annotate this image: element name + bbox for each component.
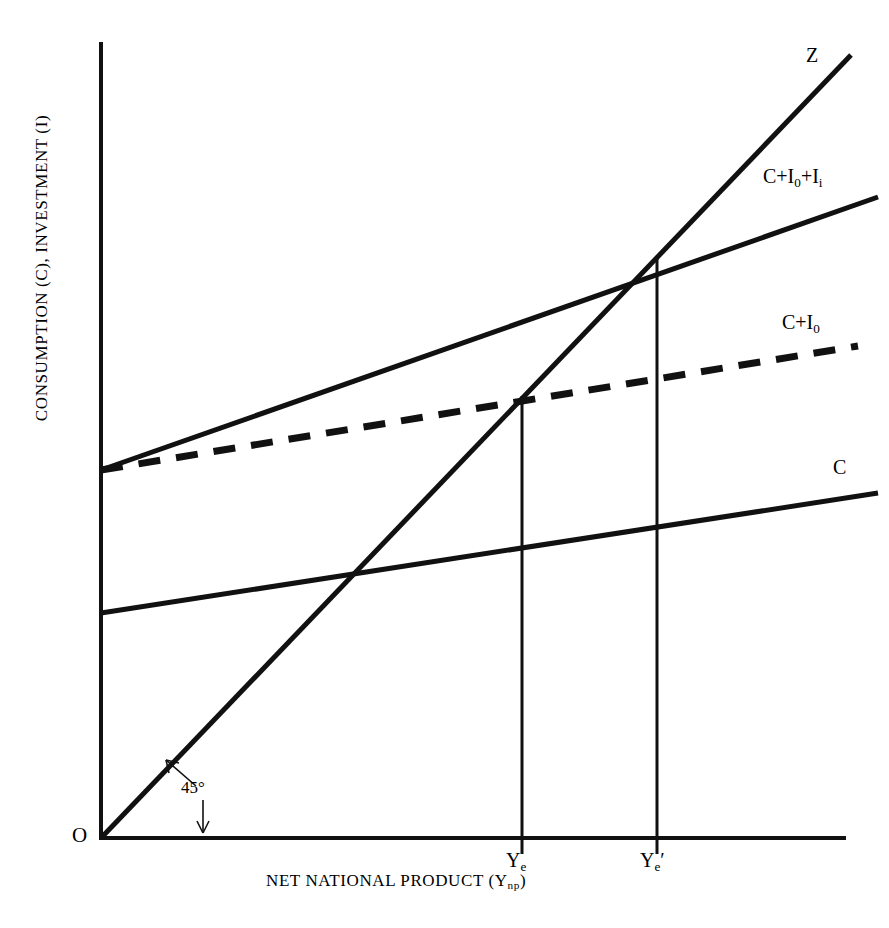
- curve-label-ci0ii-sub1: 0: [794, 175, 801, 190]
- curve-label-ci0-main: C+I: [782, 311, 813, 333]
- x-tick-label-ye: Ye: [506, 849, 526, 875]
- angle-45-label: 45°: [181, 778, 205, 798]
- curve-label-c-plus-i0: C+I0: [782, 311, 820, 337]
- series-line-z-45-degree: [101, 55, 851, 838]
- series-line-c: [101, 493, 878, 613]
- curve-label-ci0ii-main: C+I: [763, 165, 794, 187]
- x-axis-title-main: NET NATIONAL PRODUCT (Y: [266, 871, 508, 890]
- curve-label-ci0-sub: 0: [813, 321, 820, 336]
- x-tick-yep-prime: ′: [660, 849, 664, 871]
- chart-plot-area: [0, 0, 889, 928]
- curve-label-ci0ii-sub2: i: [819, 175, 823, 190]
- x-axis-title-sub: np: [508, 879, 520, 891]
- curve-label-ci0ii-mid: +I: [801, 165, 819, 187]
- economics-keynesian-cross-figure: CONSUMPTION (C), INVESTMENT (I) NET NATI…: [0, 0, 889, 928]
- x-tick-yep-main: Y: [640, 849, 654, 871]
- curve-label-c: C: [833, 456, 846, 479]
- curve-label-z: Z: [806, 44, 818, 67]
- x-tick-ye-main: Y: [506, 849, 520, 871]
- series-line-c-plus-i0: [101, 346, 858, 470]
- x-tick-ye-sub: e: [520, 859, 526, 874]
- x-tick-label-ye-prime: Ye′: [640, 849, 665, 875]
- x-axis-title: NET NATIONAL PRODUCT (Ynp): [266, 871, 526, 891]
- curve-label-c-plus-i0-plus-ii: C+I0+Ii: [763, 165, 823, 191]
- y-axis-title: CONSUMPTION (C), INVESTMENT (I): [32, 58, 52, 478]
- origin-label: O: [72, 823, 87, 848]
